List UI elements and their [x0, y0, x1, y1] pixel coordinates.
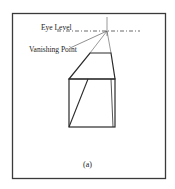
converging-line-right	[107, 31, 111, 53]
top-face	[69, 53, 115, 79]
converging-line-left	[90, 31, 107, 53]
front-face	[69, 79, 115, 127]
figure-caption: (a)	[83, 160, 92, 169]
figure-frame	[13, 14, 166, 179]
eye-level-label: Eye Level	[41, 23, 72, 32]
perspective-diagram: Eye Level Vanishing Point (a)	[0, 0, 175, 189]
vanishing-point-label: Vanishing Point	[29, 45, 78, 54]
inner-edge	[111, 79, 113, 127]
front-diagonal	[69, 79, 88, 127]
